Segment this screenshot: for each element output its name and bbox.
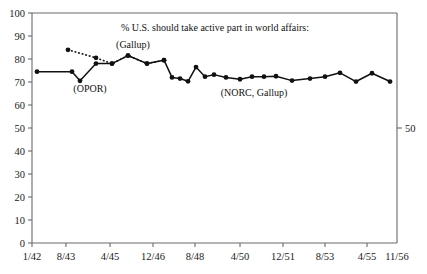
norc-gallup-label: (NORC, Gallup)	[221, 87, 288, 99]
data-point-marker	[170, 75, 175, 80]
line-chart-plot: 0102030405060708090100 1/428/434/4512/46…	[0, 0, 427, 274]
x-tick-label: 12/51	[271, 251, 295, 262]
data-point-marker	[178, 76, 183, 81]
y-axis-right-tick-label: 50	[405, 123, 416, 134]
x-axis-tick-labels: 1/428/434/4512/468/484/5012/518/534/5511…	[23, 251, 409, 262]
x-tick-label: 1/42	[23, 251, 42, 262]
y-tick-label: 60	[15, 100, 26, 111]
opor-label: (OPOR)	[73, 83, 106, 95]
x-tick-label: 12/46	[141, 251, 165, 262]
data-point-marker	[194, 65, 199, 70]
data-point-marker	[94, 55, 99, 60]
y-tick-label: 100	[9, 8, 25, 19]
data-point-marker	[126, 53, 131, 58]
data-point-marker	[290, 78, 295, 83]
data-point-marker	[338, 70, 343, 75]
x-axis-tick-marks	[32, 243, 367, 247]
data-point-marker	[94, 61, 99, 66]
y-axis-left-tick-marks	[28, 13, 32, 243]
chart-annotations: (OPOR)(Gallup)(NORC, Gallup)% U.S. shoul…	[73, 22, 309, 99]
data-point-marker	[250, 74, 255, 79]
data-point-marker	[162, 58, 167, 63]
x-tick-label: 4/45	[101, 251, 120, 262]
data-point-marker	[224, 75, 229, 80]
y-tick-label: 50	[15, 123, 26, 134]
x-tick-label: 8/53	[316, 251, 335, 262]
chart-figure: 0102030405060708090100 1/428/434/4512/46…	[0, 0, 427, 274]
x-tick-label: 11/56	[385, 251, 409, 262]
data-point-marker	[145, 61, 150, 66]
data-point-marker	[203, 74, 208, 79]
series-line-norc-gallup	[37, 56, 390, 82]
y-tick-label: 10	[15, 215, 26, 226]
data-point-marker	[238, 77, 243, 82]
data-point-marker	[35, 69, 40, 74]
main-annotation: % U.S. should take active part in world …	[121, 22, 309, 33]
y-tick-label: 30	[15, 169, 26, 180]
y-tick-label: 20	[15, 192, 26, 203]
y-tick-label: 0	[20, 238, 25, 249]
y-tick-label: 70	[15, 77, 26, 88]
data-point-marker	[323, 74, 328, 79]
y-tick-label: 90	[15, 31, 26, 42]
gallup-label: (Gallup)	[116, 39, 150, 51]
data-point-marker	[274, 74, 279, 79]
data-point-marker	[262, 74, 267, 79]
data-point-marker	[66, 47, 71, 52]
x-tick-label: 4/50	[231, 251, 250, 262]
data-point-marker	[70, 69, 75, 74]
data-point-marker	[370, 71, 375, 76]
x-tick-label: 4/55	[358, 251, 377, 262]
y-tick-label: 80	[15, 54, 26, 65]
data-point-marker	[354, 79, 359, 84]
x-tick-label: 8/43	[57, 251, 76, 262]
data-point-marker	[110, 61, 115, 66]
data-point-marker	[212, 72, 217, 77]
series-markers-norc-gallup	[35, 53, 393, 84]
y-axis-left-tick-labels: 0102030405060708090100	[9, 8, 25, 249]
x-tick-label: 8/48	[186, 251, 205, 262]
data-point-marker	[388, 79, 393, 84]
y-tick-label: 40	[15, 146, 26, 157]
data-point-marker	[186, 79, 191, 84]
data-point-marker	[308, 76, 313, 81]
